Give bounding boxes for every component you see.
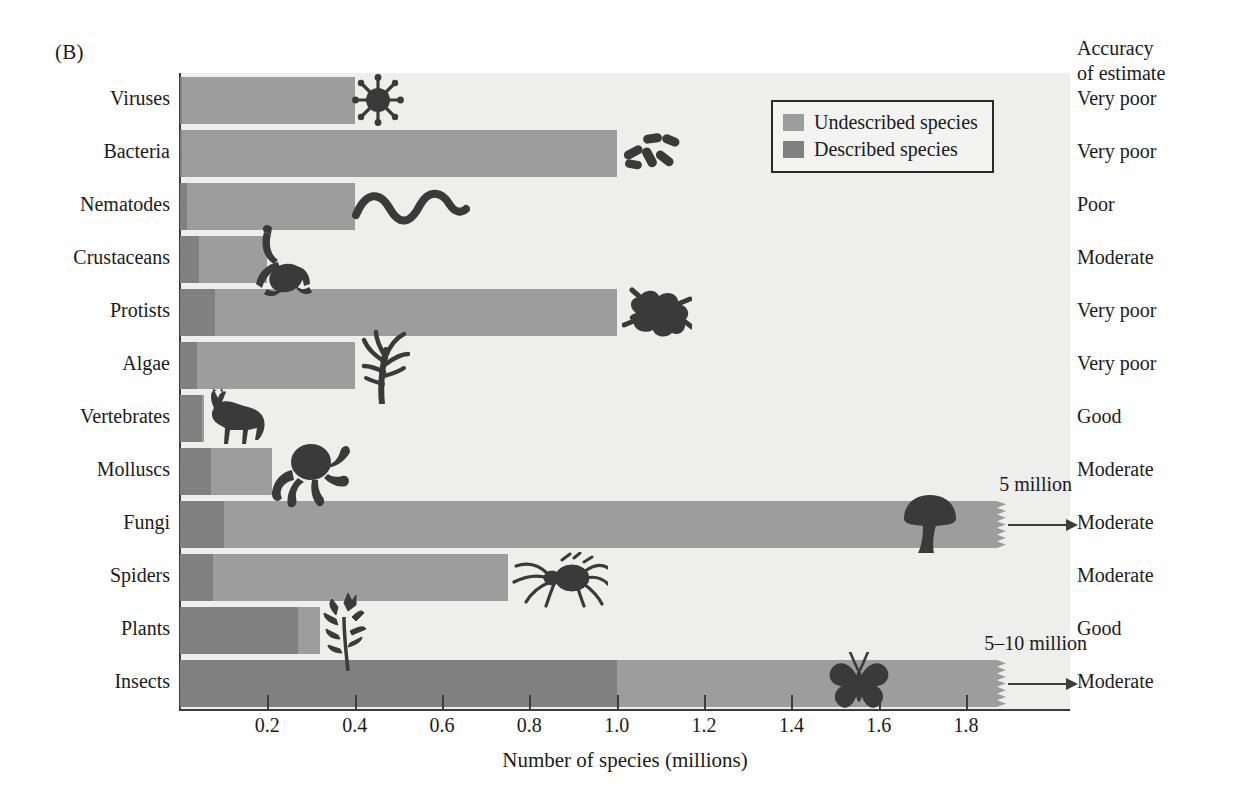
x-axis-tick <box>529 695 531 710</box>
category-label-crustaceans: Crustaceans <box>73 246 170 269</box>
x-axis-tick <box>442 695 444 710</box>
legend-item-undescribed[interactable]: Undescribed species <box>783 109 978 136</box>
bar-truncation-jagged-edge <box>997 501 1006 548</box>
x-axis-tick <box>355 695 357 710</box>
bar-row <box>0 289 1242 336</box>
x-axis-tick-label: 0.6 <box>430 714 455 737</box>
category-label-spiders: Spiders <box>110 564 170 587</box>
bar-segment-undescribed[interactable] <box>197 342 354 389</box>
category-label-bacteria: Bacteria <box>103 140 170 163</box>
bar-segment-undescribed[interactable] <box>298 607 320 654</box>
bar-segment-described[interactable] <box>180 448 211 495</box>
legend-item-described[interactable]: Described species <box>783 136 978 163</box>
accuracy-value: Good <box>1077 405 1121 428</box>
accuracy-value: Moderate <box>1077 458 1154 481</box>
bar-row <box>0 395 1242 442</box>
bar-segment-undescribed[interactable] <box>213 554 508 601</box>
category-label-plants: Plants <box>121 617 170 640</box>
bar-segment-undescribed[interactable] <box>187 183 355 230</box>
truncation-arrow-icon <box>1008 518 1078 532</box>
x-axis-tick-label: 1.8 <box>954 714 979 737</box>
bar-segment-described[interactable] <box>180 501 224 548</box>
bar-segment-undescribed[interactable] <box>215 289 617 336</box>
bar-segment-undescribed[interactable] <box>202 395 204 442</box>
x-axis-tick-label: 0.2 <box>255 714 280 737</box>
category-label-nematodes: Nematodes <box>80 193 170 216</box>
x-axis-tick <box>267 695 269 710</box>
accuracy-value: Poor <box>1077 193 1115 216</box>
x-axis-tick-label: 1.2 <box>692 714 717 737</box>
category-label-molluscs: Molluscs <box>97 458 170 481</box>
category-label-vertebrates: Vertebrates <box>80 405 170 428</box>
category-label-viruses: Viruses <box>110 87 170 110</box>
x-axis-tick <box>966 695 968 710</box>
category-label-protists: Protists <box>110 299 170 322</box>
bar-segment-undescribed[interactable] <box>224 501 997 548</box>
accuracy-value: Very poor <box>1077 87 1156 110</box>
legend-label-described: Described species <box>814 138 958 161</box>
figure-panel-b: (B) Accuracy of estimate VirusesBacteria… <box>0 0 1242 812</box>
accuracy-value: Moderate <box>1077 246 1154 269</box>
x-axis-tick-label: 1.6 <box>866 714 891 737</box>
bar-segment-described[interactable] <box>180 236 199 283</box>
x-axis-label: Number of species (millions) <box>180 748 1070 773</box>
bar-row <box>0 77 1242 124</box>
x-axis-tick-label: 1.0 <box>604 714 629 737</box>
legend-label-undescribed: Undescribed species <box>814 111 978 134</box>
accuracy-value: Moderate <box>1077 564 1154 587</box>
x-axis-tick-label: 1.4 <box>779 714 804 737</box>
accuracy-value: Moderate <box>1077 511 1154 534</box>
bar-row <box>0 342 1242 389</box>
accuracy-value: Very poor <box>1077 352 1156 375</box>
accuracy-value: Very poor <box>1077 299 1156 322</box>
chart-legend: Undescribed species Described species <box>771 100 994 173</box>
category-label-fungi: Fungi <box>123 511 170 534</box>
x-axis-tick <box>791 695 793 710</box>
truncation-arrow-icon <box>1008 677 1078 691</box>
bar-segment-described[interactable] <box>180 660 617 707</box>
bar-segment-described[interactable] <box>180 554 213 601</box>
legend-swatch-described <box>783 141 804 158</box>
bar-segment-described[interactable] <box>180 289 215 336</box>
bar-segment-undescribed[interactable] <box>211 448 272 495</box>
bar-row <box>0 554 1242 601</box>
x-axis-tick-label: 0.4 <box>342 714 367 737</box>
x-axis-tick <box>617 695 619 710</box>
truncation-value-label: 5 million <box>999 473 1072 496</box>
x-axis-tick-label: 0.8 <box>517 714 542 737</box>
bar-segment-described[interactable] <box>180 342 197 389</box>
x-axis-tick <box>704 695 706 710</box>
bar-row <box>0 236 1242 283</box>
panel-letter: (B) <box>55 40 84 65</box>
bar-segment-described[interactable] <box>180 607 298 654</box>
bar-row <box>0 183 1242 230</box>
accuracy-value: Very poor <box>1077 140 1156 163</box>
category-label-algae: Algae <box>122 352 170 375</box>
bar-segment-undescribed[interactable] <box>182 77 354 124</box>
bar-segment-described[interactable] <box>180 395 202 442</box>
bar-segment-undescribed[interactable] <box>199 236 267 283</box>
bar-segment-undescribed[interactable] <box>182 130 617 177</box>
bar-segment-undescribed[interactable] <box>617 660 997 707</box>
bar-truncation-jagged-edge <box>997 660 1006 707</box>
legend-swatch-undescribed <box>783 114 804 131</box>
accuracy-value: Moderate <box>1077 670 1154 693</box>
category-label-insects: Insects <box>114 670 170 693</box>
truncation-value-label: 5–10 million <box>984 632 1087 655</box>
x-axis-line <box>179 709 1070 711</box>
x-axis-tick <box>879 695 881 710</box>
bar-row <box>0 130 1242 177</box>
